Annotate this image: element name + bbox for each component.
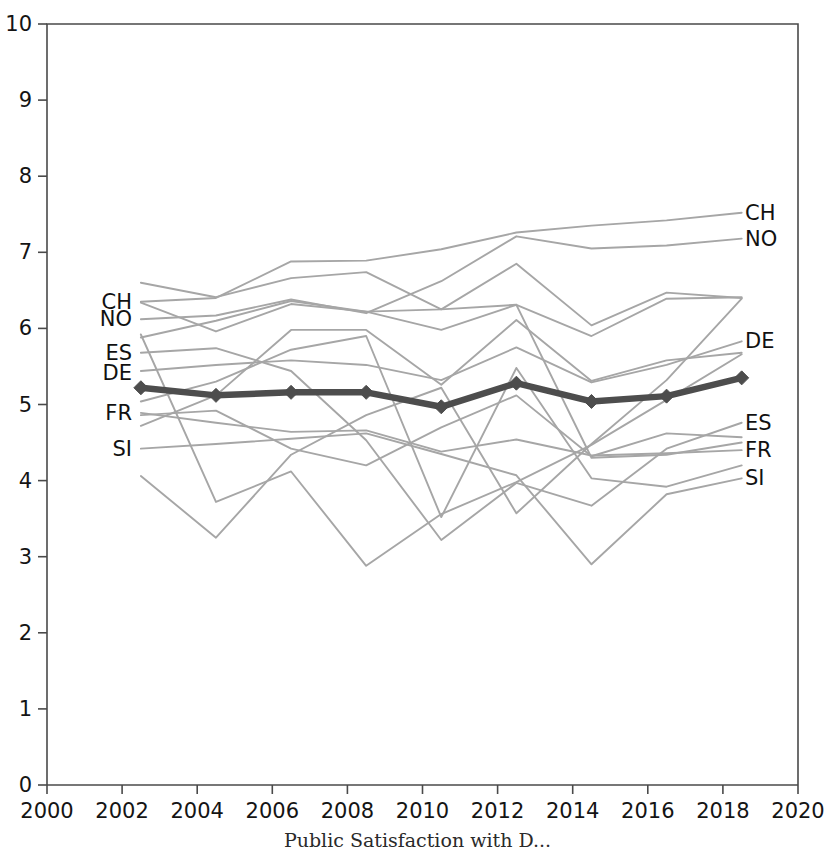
y-tick-label: 9 (19, 88, 32, 112)
y-tick-label: 4 (19, 469, 32, 493)
y-tick-label: 0 (19, 773, 32, 797)
y-tick-label: 8 (19, 164, 32, 188)
x-tick-label: 2000 (20, 799, 73, 823)
x-tick-label: 2008 (321, 799, 374, 823)
series-label-right-es: ES (745, 411, 772, 435)
series-marker-diamond (284, 385, 298, 399)
series-label-right-fr: FR (745, 438, 772, 462)
x-tick-label: 2020 (771, 799, 824, 823)
y-axis: 012345678910 (5, 12, 47, 797)
series-marker-diamond (359, 385, 373, 399)
x-tick-label: 2006 (246, 799, 299, 823)
chart-canvas: 0123456789102000200220042006200820102012… (0, 0, 835, 849)
series-line-b (141, 297, 742, 337)
x-tick-label: 2014 (546, 799, 599, 823)
series-label-right-ch: CH (745, 201, 775, 225)
series-label-right-de: DE (745, 329, 774, 353)
series-label-left-si: SI (112, 437, 132, 461)
series-line-es (141, 348, 742, 540)
line-chart: 0123456789102000200220042006200820102012… (0, 0, 835, 849)
series-marker-diamond (735, 371, 749, 385)
y-tick-label: 7 (19, 240, 32, 264)
y-tick-label: 10 (5, 12, 32, 36)
x-tick-label: 2012 (471, 799, 524, 823)
series-label-right-no: NO (745, 227, 777, 251)
series-marker-diamond (134, 381, 148, 395)
x-tick-label: 2002 (95, 799, 148, 823)
series-group (134, 213, 749, 566)
y-tick-label: 5 (19, 393, 32, 417)
x-tick-label: 2004 (170, 799, 223, 823)
y-tick-label: 1 (19, 697, 32, 721)
x-axis: 2000200220042006200820102012201420162018… (20, 785, 824, 823)
series-label-left-de: DE (103, 361, 132, 385)
y-tick-label: 2 (19, 621, 32, 645)
chart-caption: Public Satisfaction with D... (0, 829, 835, 849)
x-tick-label: 2018 (696, 799, 749, 823)
series-label-left-fr: FR (105, 401, 132, 425)
y-tick-label: 3 (19, 545, 32, 569)
series-line-ch (141, 213, 742, 302)
series-marker-diamond (660, 389, 674, 403)
series-label-right-si: SI (745, 466, 765, 490)
y-tick-label: 6 (19, 316, 32, 340)
x-tick-label: 2016 (621, 799, 674, 823)
series-label-left-no: NO (100, 307, 132, 331)
series-marker-diamond (584, 394, 598, 408)
x-tick-label: 2010 (396, 799, 449, 823)
